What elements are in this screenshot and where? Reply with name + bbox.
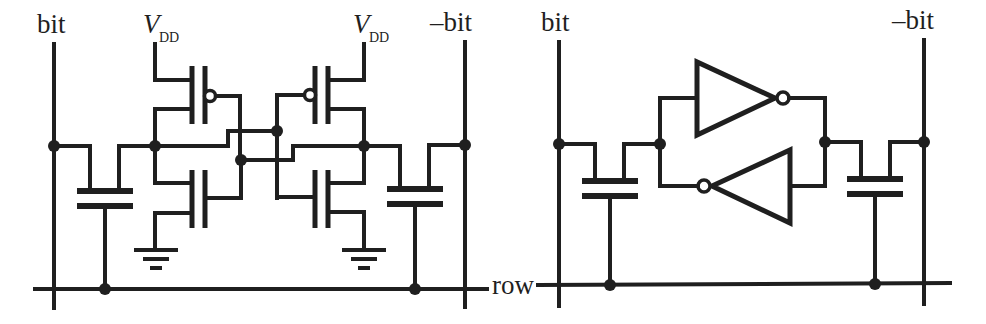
junction-dot [869,278,881,290]
label-not-bit-left: –bit [429,7,473,37]
left-circuit: bit V DD V DD –bit [35,7,487,308]
access-capacitor-right-b [825,142,924,284]
inverter-bottom [660,142,825,223]
cross-wire-1 [155,131,277,146]
row-line-right [538,283,950,285]
pmos-right [277,44,364,146]
inverter-top [660,62,825,144]
junction-dot [604,279,616,291]
junction-dot [819,136,831,148]
junction-dot [48,140,60,152]
right-circuit: bit –bit [538,5,950,306]
ground-right-icon [344,250,384,268]
junction-dot [271,125,283,137]
access-capacitor-left-b [364,145,465,289]
junction-dot [409,283,421,295]
junction-dot [358,140,370,152]
label-vdd-left-sub: DD [159,30,179,45]
junction-dot [149,140,161,152]
label-bit-left: bit [37,9,66,39]
junction-dot [918,136,930,148]
label-not-bit-right: –bit [891,5,935,35]
diagram-svg: bit V DD V DD –bit [0,0,986,324]
label-row: row [492,270,534,300]
access-capacitor-left-a [54,146,155,289]
label-vdd-right-sub: DD [369,30,389,45]
access-capacitor-right-a [559,144,660,285]
ground-left-icon [136,250,176,268]
cross-wire-2 [241,146,364,160]
pmos-bubble-left [205,91,216,102]
sram-cell-diagram: bit V DD V DD –bit [0,0,986,324]
junction-dot [235,154,247,166]
junction-dot [99,283,111,295]
junction-dot [459,139,471,151]
junction-dot [553,138,565,150]
junction-dot [654,138,666,150]
nmos-left [155,146,241,250]
label-bit-right: bit [541,7,570,37]
pmos-bubble-right [305,90,316,101]
